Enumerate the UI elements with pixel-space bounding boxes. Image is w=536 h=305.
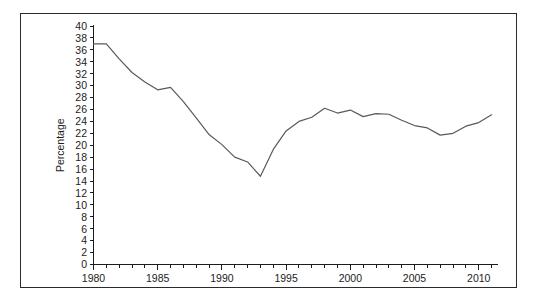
y-tick-label: 20 [75,139,87,151]
tick-marks-layer [90,26,492,270]
y-tick-labels: 0246810121416182022242628303234363840 [75,20,87,270]
y-axis-title: Percentage [54,118,66,172]
x-tick-labels: 1980198519901995200020052010 [82,272,491,284]
y-tick-label: 40 [75,20,87,32]
data-line-series-0 [94,44,492,176]
y-tick-label: 26 [75,103,87,115]
y-tick-label: 24 [75,115,87,127]
y-tick-label: 10 [75,199,87,211]
data-series-layer [94,44,492,176]
x-tick-label: 1990 [210,272,234,284]
y-tick-label: 38 [75,32,87,44]
x-tick-label: 1980 [82,272,106,284]
x-tick-label: 2005 [403,272,427,284]
x-tick-label: 2010 [467,272,491,284]
y-tick-label: 34 [75,56,87,68]
y-tick-label: 4 [81,234,87,246]
y-axis-title-text: Percentage [54,118,66,172]
y-tick-label: 6 [81,223,87,235]
y-tick-label: 8 [81,211,87,223]
axes-layer [94,25,499,265]
y-tick-label: 28 [75,91,87,103]
y-tick-label: 32 [75,68,87,80]
y-tick-label: 16 [75,163,87,175]
y-tick-label: 12 [75,187,87,199]
y-tick-label: 22 [75,127,87,139]
x-tick-label: 2000 [339,272,363,284]
x-tick-label: 1995 [274,272,298,284]
y-tick-label: 18 [75,151,87,163]
line-chart: 0246810121416182022242628303234363840 19… [0,0,536,305]
y-tick-label: 30 [75,79,87,91]
y-tick-label: 2 [81,246,87,258]
y-tick-label: 14 [75,175,87,187]
y-tick-label: 0 [81,258,87,270]
x-tick-label: 1985 [146,272,170,284]
y-tick-label: 36 [75,44,87,56]
figure-root: 0246810121416182022242628303234363840 19… [0,0,536,305]
